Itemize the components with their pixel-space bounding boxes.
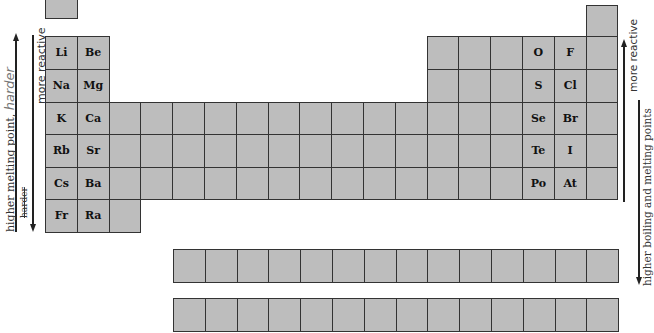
- element-cell-blank: [490, 69, 523, 103]
- element-cell-blank: [299, 134, 332, 168]
- right-inner-label: more reactive: [627, 19, 639, 92]
- element-cell-blank: [427, 69, 460, 103]
- element-cell-blank: [395, 102, 428, 136]
- element-cell-blank: [109, 102, 142, 136]
- element-cell-blank: [331, 102, 364, 136]
- element-cell-blank: [427, 102, 460, 136]
- element-cell-blank: [236, 134, 269, 168]
- actinide-cell: [205, 298, 238, 332]
- element-cell-blank: [363, 102, 396, 136]
- element-cell-blank: [268, 167, 301, 201]
- actinide-cell: [332, 298, 365, 332]
- lanthanide-cell: [586, 249, 619, 283]
- element-cell-f: F: [554, 36, 587, 70]
- lanthanide-cell: [300, 249, 333, 283]
- element-cell-rb: Rb: [45, 134, 78, 168]
- element-cell-blank: [427, 167, 460, 201]
- element-cell-blank: [427, 134, 460, 168]
- element-cell-blank: [427, 36, 460, 70]
- element-cell-blank: [586, 5, 619, 39]
- element-cell-blank: [490, 134, 523, 168]
- lanthanide-cell: [173, 249, 206, 283]
- element-cell-blank: [140, 102, 173, 136]
- element-cell-blank: [204, 134, 237, 168]
- element-cell-blank: [236, 167, 269, 201]
- right-outer-label: higher boiling and melting points: [641, 108, 653, 286]
- actinide-cell: [300, 298, 333, 332]
- actinide-cell: [173, 298, 206, 332]
- element-cell-br: Br: [554, 102, 587, 136]
- arrow-up-icon: [621, 39, 627, 47]
- left-inner-arrow-line: [32, 35, 34, 225]
- element-cell-blank: [140, 167, 173, 201]
- lanthanide-cell: [459, 249, 492, 283]
- element-cell-blank: [331, 167, 364, 201]
- actinide-cell: [555, 298, 588, 332]
- actinide-cell: [586, 298, 619, 332]
- element-cell-blank: [586, 69, 619, 103]
- element-cell-blank: [268, 134, 301, 168]
- lanthanide-cell: [205, 249, 238, 283]
- element-cell-at: At: [554, 167, 587, 201]
- element-cell-blank: [586, 36, 619, 70]
- element-cell-li: Li: [45, 36, 78, 70]
- element-cell-blank: [268, 102, 301, 136]
- element-cell-blank: [331, 134, 364, 168]
- arrow-down-icon: [30, 224, 36, 232]
- element-cell-mg: Mg: [77, 69, 110, 103]
- lanthanide-cell: [364, 249, 397, 283]
- left-inner-label: more reactive: [35, 28, 48, 104]
- melting-point-text: higher melting point,: [4, 114, 17, 232]
- element-cell-blank: [172, 102, 205, 136]
- element-cell-blank: [109, 167, 142, 201]
- element-cell-blank: [172, 134, 205, 168]
- element-cell-na: Na: [45, 69, 78, 103]
- element-cell-blank: [490, 36, 523, 70]
- element-cell-blank: [140, 134, 173, 168]
- right-inner-arrow-line: [623, 46, 625, 202]
- lanthanide-cell: [332, 249, 365, 283]
- actinide-cell: [523, 298, 556, 332]
- element-cell-po: Po: [522, 167, 555, 201]
- element-cell-blank: [299, 167, 332, 201]
- element-cell-blank: [45, 0, 78, 19]
- actinide-cell: [459, 298, 492, 332]
- element-cell-blank: [204, 167, 237, 201]
- right-outer-arrow-line: [638, 100, 640, 278]
- element-cell-blank: [109, 199, 142, 233]
- element-cell-blank: [586, 102, 619, 136]
- element-cell-ra: Ra: [77, 199, 110, 233]
- element-cell-blank: [395, 134, 428, 168]
- left-outer-label: higher melting point, harder: [2, 67, 17, 232]
- element-cell-blank: [586, 134, 619, 168]
- element-cell-blank: [236, 102, 269, 136]
- lanthanide-cell: [555, 249, 588, 283]
- actinide-cell: [364, 298, 397, 332]
- element-cell-blank: [458, 36, 491, 70]
- element-cell-blank: [490, 102, 523, 136]
- lanthanide-cell: [268, 249, 301, 283]
- element-cell-blank: [172, 167, 205, 201]
- actinide-cell: [396, 298, 429, 332]
- element-cell-ca: Ca: [77, 102, 110, 136]
- element-cell-blank: [458, 167, 491, 201]
- lanthanide-cell: [237, 249, 270, 283]
- element-cell-i: I: [554, 134, 587, 168]
- handwritten-harder: harder: [2, 67, 17, 110]
- element-cell-blank: [299, 102, 332, 136]
- element-cell-se: Se: [522, 102, 555, 136]
- element-cell-blank: [395, 167, 428, 201]
- element-cell-fr: Fr: [45, 199, 78, 233]
- element-cell-blank: [109, 134, 142, 168]
- actinide-cell: [237, 298, 270, 332]
- element-cell-blank: [458, 69, 491, 103]
- lanthanide-cell: [396, 249, 429, 283]
- element-cell-cl: Cl: [554, 69, 587, 103]
- element-cell-te: Te: [522, 134, 555, 168]
- lanthanide-cell: [427, 249, 460, 283]
- element-cell-blank: [458, 102, 491, 136]
- element-cell-blank: [204, 102, 237, 136]
- lanthanide-cell: [491, 249, 524, 283]
- crossed-out-harder: harder: [19, 187, 29, 218]
- actinide-cell: [491, 298, 524, 332]
